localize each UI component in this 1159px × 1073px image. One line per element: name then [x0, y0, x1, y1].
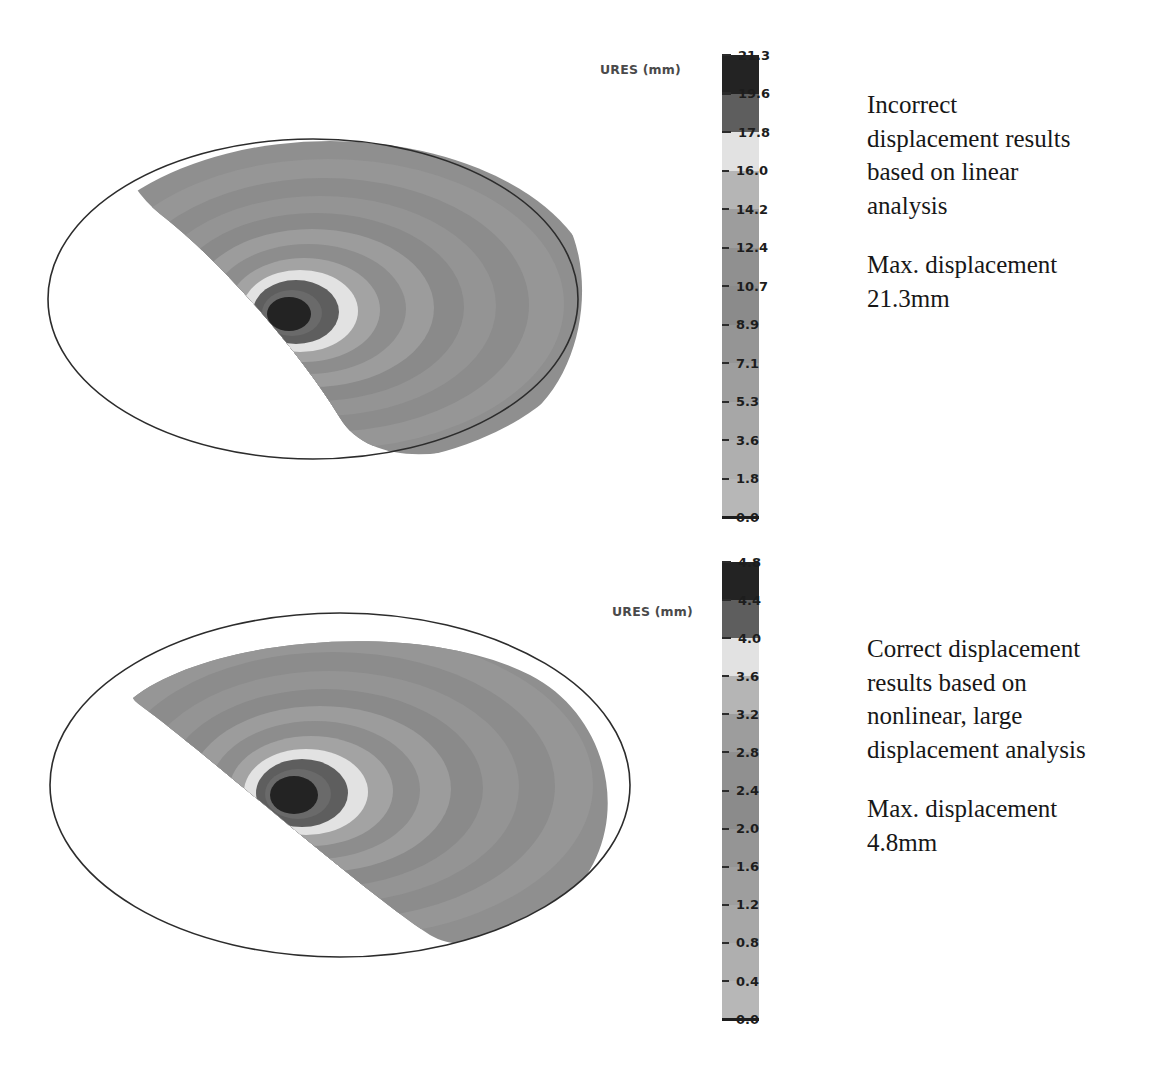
annotation-line: results based on	[867, 666, 1137, 700]
tick-mark-icon	[722, 675, 729, 677]
contour-bands-linear	[62, 141, 598, 467]
annotation-nonlinear: Correct displacement results based on no…	[867, 632, 1137, 859]
tick-mark-icon	[722, 401, 729, 403]
tick-mark-icon	[722, 828, 729, 830]
annotation-line: displacement results	[867, 122, 1137, 156]
contour-bands-nonlinear	[50, 613, 630, 957]
annotation-line: 4.8mm	[867, 826, 1137, 860]
tick-mark-icon	[722, 170, 729, 172]
tick-mark-icon	[722, 478, 729, 480]
legend-linear: URES (mm) 21.3 19.6	[600, 48, 800, 528]
annotation-line: based on linear	[867, 155, 1137, 189]
tick-mark-icon	[722, 942, 729, 944]
tick-mark-icon	[722, 54, 731, 57]
annotation-line: 21.3mm	[867, 282, 1137, 316]
tick-mark-icon	[722, 362, 729, 364]
tick-mark-icon	[722, 561, 731, 564]
contour-plot-linear-svg	[40, 118, 600, 518]
tick-mark-icon	[722, 324, 729, 326]
annotation-line: Max. displacement	[867, 792, 1137, 826]
tick-mark-icon	[722, 439, 729, 441]
annotation-line: Correct displacement	[867, 632, 1137, 666]
tick-mark-icon	[722, 751, 729, 753]
tick-mark-icon	[722, 208, 729, 210]
annotation-linear: Incorrect displacement results based on …	[867, 88, 1137, 315]
tick-mark-icon	[722, 92, 731, 95]
tick-mark-icon	[722, 247, 729, 249]
contour-plot-nonlinear-svg	[40, 585, 660, 985]
annotation-line: displacement analysis	[867, 733, 1137, 767]
tick-mark-icon	[722, 637, 731, 640]
tick-mark-icon	[722, 1018, 729, 1020]
tick-mark-icon	[722, 131, 731, 134]
panel-linear-analysis: URES (mm) 21.3 19.6	[0, 0, 1159, 540]
tick-mark-icon	[722, 904, 729, 906]
annotation-spacer	[867, 766, 1137, 792]
tick-mark-icon	[722, 980, 729, 982]
contour-plot-linear[interactable]	[40, 118, 600, 518]
tick-mark-icon	[722, 599, 731, 602]
legend-ticks-linear: 21.3 19.6 17.8 16.0 14.2 12.4	[722, 55, 792, 517]
annotation-line: nonlinear, large	[867, 699, 1137, 733]
legend-ticks-nonlinear: 4.8 4.4 4.0 3.6 3.2 2.8	[722, 562, 792, 1019]
tick-mark-icon	[722, 516, 729, 518]
tick-mark-icon	[722, 866, 729, 868]
legend-title-linear: URES (mm)	[600, 62, 681, 77]
annotation-line: Max. displacement	[867, 248, 1137, 282]
annotation-spacer	[867, 222, 1137, 248]
annotation-line: analysis	[867, 189, 1137, 223]
legend-title-nonlinear: URES (mm)	[612, 604, 693, 619]
tick-mark-icon	[722, 790, 729, 792]
tick-mark-icon	[722, 713, 729, 715]
annotation-line: Incorrect	[867, 88, 1137, 122]
legend-nonlinear: URES (mm) 4.8 4.4	[600, 555, 800, 1035]
tick-mark-icon	[722, 285, 729, 287]
panel-nonlinear-analysis: URES (mm) 4.8 4.4	[0, 540, 1159, 1073]
contour-plot-nonlinear[interactable]	[40, 585, 660, 985]
